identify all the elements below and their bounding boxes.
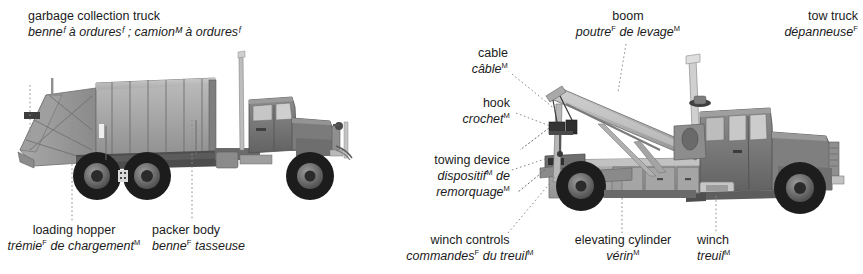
callout-cable-fr: câbleM bbox=[418, 61, 508, 77]
garbage-truck-title-fr: benneᶠ à orduresᶠ ; camionᴹ à orduresᶠ bbox=[28, 24, 243, 40]
garbage-truck-title: garbage collection truck benneᶠ à ordure… bbox=[28, 8, 288, 40]
callout-boom: boom poutreF de levageM bbox=[538, 8, 718, 40]
callout-winch-en: winch bbox=[697, 232, 787, 248]
tow-truck-front-wheel bbox=[774, 162, 826, 214]
callout-towing-device-fr: dispositifM de bbox=[398, 168, 510, 184]
callout-cable: cable câbleM bbox=[418, 45, 508, 77]
callout-winch-fr: treuilM bbox=[697, 248, 787, 264]
callout-towing-device-en: towing device bbox=[398, 152, 510, 168]
callout-elevating-cylinder-en: elevating cylinder bbox=[556, 232, 690, 248]
callout-cable-en: cable bbox=[418, 45, 508, 61]
callout-loading-hopper-en: loading hopper bbox=[0, 222, 148, 238]
tow-truck-rear-wheel bbox=[556, 161, 606, 211]
garbage-truck-rear-wheels bbox=[73, 152, 171, 200]
callout-towing-device-fr2: remorquageM bbox=[398, 184, 510, 200]
callout-loading-hopper-fr: trémieF de chargementM bbox=[0, 238, 148, 254]
callout-hook: hook crochetM bbox=[408, 95, 510, 127]
callout-winch-controls: winch controls commandesF du treuilM bbox=[390, 232, 550, 264]
callout-boom-fr: poutreF de levageM bbox=[538, 24, 718, 40]
tow-truck-leaders bbox=[508, 44, 716, 233]
tow-truck-drawing bbox=[518, 54, 844, 214]
callout-loading-hopper: loading hopper trémieF de chargementM bbox=[0, 222, 148, 254]
callout-winch-controls-fr: commandesF du treuilM bbox=[390, 248, 550, 264]
callout-packer-body: packer body benneF tasseuse bbox=[152, 222, 302, 254]
callout-elevating-cylinder: elevating cylinder vérinM bbox=[556, 232, 690, 264]
callout-hook-en: hook bbox=[408, 95, 510, 111]
callout-packer-body-fr: benneF tasseuse bbox=[152, 238, 302, 254]
callout-boom-en: boom bbox=[538, 8, 718, 24]
garbage-truck-leaders bbox=[30, 85, 192, 221]
callout-towing-device: towing device dispositifM de remorquageM bbox=[398, 152, 510, 200]
callout-hook-fr: crochetM bbox=[408, 111, 510, 127]
callout-packer-body-en: packer body bbox=[152, 222, 302, 238]
garbage-truck-title-en: garbage collection truck bbox=[28, 8, 288, 24]
callout-winch: winch treuilM bbox=[697, 232, 787, 264]
callout-winch-controls-en: winch controls bbox=[390, 232, 550, 248]
garbage-truck-drawing bbox=[18, 51, 352, 200]
garbage-truck-front-wheel bbox=[286, 152, 334, 200]
callout-elevating-cylinder-fr: vérinM bbox=[556, 248, 690, 264]
illustration-plate: garbage collection truck benneᶠ à ordure… bbox=[0, 0, 863, 274]
